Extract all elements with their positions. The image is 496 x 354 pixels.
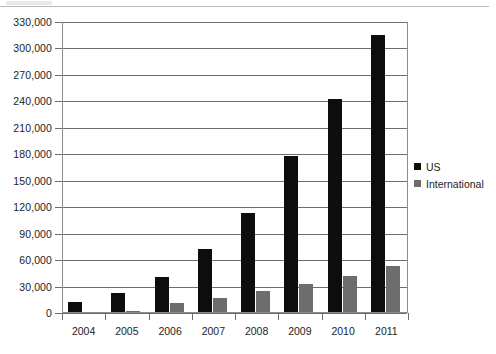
y-axis-tick xyxy=(55,22,62,23)
y-axis-tick xyxy=(55,234,62,235)
y-axis-tick-label: 150,000 xyxy=(13,175,52,187)
x-axis-label-2007: 2007 xyxy=(202,325,225,337)
y-axis-tick xyxy=(55,207,62,208)
y-axis-tick xyxy=(55,101,62,102)
x-axis-tick xyxy=(235,313,236,320)
legend-swatch-us-icon xyxy=(414,163,421,170)
bar-us-2007 xyxy=(198,249,212,312)
y-axis-tick xyxy=(55,128,62,129)
x-axis-label-2006: 2006 xyxy=(158,325,181,337)
y-axis: 030,00060,00090,000120,000150,000180,000… xyxy=(0,22,62,313)
y-axis-tick-label: 210,000 xyxy=(13,122,52,134)
bar-series-container xyxy=(63,22,407,312)
y-axis-tick xyxy=(55,48,62,49)
y-axis-tick xyxy=(55,313,62,314)
bar-international-2007 xyxy=(213,298,227,312)
bar-international-2006 xyxy=(170,303,184,312)
legend-item-international: International xyxy=(414,175,494,192)
bar-us-2005 xyxy=(111,293,125,312)
y-axis-tick-label: 90,000 xyxy=(19,228,52,240)
legend-swatch-international-icon xyxy=(414,180,421,187)
x-axis-tick xyxy=(365,313,366,320)
y-axis-tick-label: 330,000 xyxy=(13,16,52,28)
x-axis-label-2004: 2004 xyxy=(72,325,95,337)
legend-label-us: US xyxy=(426,161,441,173)
x-axis-label-2009: 2009 xyxy=(288,325,311,337)
legend-item-us: US xyxy=(414,158,494,175)
y-axis-tick-label: 300,000 xyxy=(13,42,52,54)
bar-international-2010 xyxy=(343,276,357,312)
y-axis-tick-label: 30,000 xyxy=(19,281,52,293)
x-axis-tick xyxy=(278,313,279,320)
x-axis-label-2008: 2008 xyxy=(245,325,268,337)
bar-us-2010 xyxy=(328,99,342,312)
x-axis-label-2011: 2011 xyxy=(375,325,398,337)
bar-international-2008 xyxy=(256,291,270,312)
x-axis-tick xyxy=(149,313,150,320)
bar-us-2004 xyxy=(68,302,82,312)
y-axis-tick-label: 120,000 xyxy=(13,201,52,213)
y-axis-tick-label: 60,000 xyxy=(19,254,52,266)
top-horizontal-rule xyxy=(0,6,489,7)
y-axis-tick xyxy=(55,75,62,76)
bar-international-2009 xyxy=(299,284,313,312)
y-axis-tick-label: 240,000 xyxy=(13,95,52,107)
y-axis-tick xyxy=(55,260,62,261)
legend-label-international: International xyxy=(426,178,484,190)
y-axis-tick xyxy=(55,154,62,155)
x-axis-label-2005: 2005 xyxy=(115,325,138,337)
x-axis-tick xyxy=(62,313,63,320)
bar-us-2008 xyxy=(241,213,255,312)
x-axis-tick xyxy=(192,313,193,320)
x-axis-label-2010: 2010 xyxy=(331,325,354,337)
y-axis-tick xyxy=(55,181,62,182)
y-axis-tick xyxy=(55,287,62,288)
plot-area xyxy=(62,22,408,313)
x-axis-tick xyxy=(408,313,409,320)
chart-legend: US International xyxy=(414,158,494,192)
chart-figure: 030,00060,00090,000120,000150,000180,000… xyxy=(0,0,496,354)
bar-international-2011 xyxy=(386,266,400,312)
y-axis-tick-label: 0 xyxy=(46,307,52,319)
y-axis-tick-label: 180,000 xyxy=(13,148,52,160)
bar-international-2005 xyxy=(126,311,140,312)
bar-us-2011 xyxy=(371,35,385,312)
bar-us-2009 xyxy=(284,156,298,312)
bar-us-2006 xyxy=(155,277,169,312)
x-axis-ticks xyxy=(62,313,408,321)
x-axis-labels: 20042005200620072008200920102011 xyxy=(62,325,408,343)
x-axis-tick xyxy=(322,313,323,320)
x-axis-tick xyxy=(105,313,106,320)
y-axis-tick-label: 270,000 xyxy=(13,69,52,81)
scan-artifact-smudge xyxy=(6,1,52,5)
